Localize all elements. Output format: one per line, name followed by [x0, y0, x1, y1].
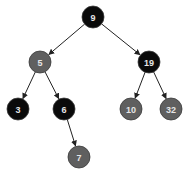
edge-5-to-6 — [45, 72, 59, 99]
node-label: 6 — [61, 105, 66, 115]
edge-9-to-5 — [49, 24, 85, 54]
tree-node-19: 19 — [138, 51, 160, 73]
node-label: 3 — [15, 105, 20, 115]
tree-node-7: 7 — [68, 146, 90, 168]
edge-19-to-10 — [135, 72, 145, 98]
edge-5-to-3 — [23, 72, 35, 99]
tree-node-9: 9 — [82, 6, 104, 28]
node-label: 19 — [144, 58, 154, 68]
node-label: 7 — [76, 153, 81, 163]
tree-node-5: 5 — [29, 51, 51, 73]
node-label: 10 — [126, 105, 136, 115]
nodes-layer: 95193610327 — [7, 6, 182, 168]
tree-diagram: 95193610327 — [0, 0, 191, 178]
tree-node-10: 10 — [120, 98, 142, 120]
tree-node-3: 3 — [7, 98, 29, 120]
node-label: 32 — [166, 105, 176, 115]
node-label: 5 — [37, 58, 42, 68]
tree-node-6: 6 — [53, 98, 75, 120]
tree-node-32: 32 — [160, 98, 182, 120]
edge-9-to-19 — [102, 24, 140, 55]
edge-19-to-32 — [154, 72, 166, 99]
edges-layer — [23, 24, 166, 146]
edge-6-to-7 — [67, 119, 75, 146]
node-label: 9 — [90, 13, 95, 23]
